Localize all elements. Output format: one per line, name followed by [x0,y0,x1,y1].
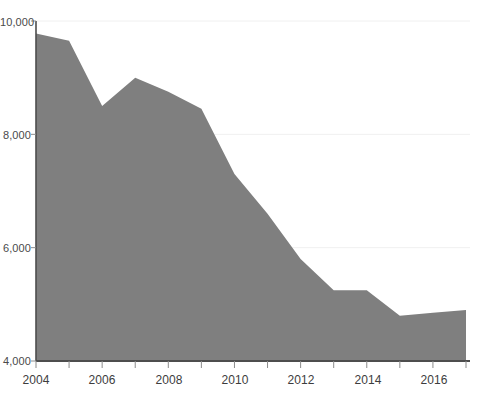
x-tick-label-2010: 2010 [206,373,264,387]
x-tick-label-2016: 2016 [405,373,463,387]
x-tick-label-2014: 2014 [339,373,397,387]
x-axis-tick-marks [36,361,466,368]
chart-plot-area [0,0,479,398]
x-tick-label-2004: 2004 [7,373,65,387]
x-tick-label-2008: 2008 [140,373,198,387]
y-tick-label-6000: 6,000 [0,242,31,254]
area-series-fill [36,33,466,361]
x-tick-label-2006: 2006 [73,373,131,387]
y-tick-label-4000: 4,000 [0,355,31,367]
y-tick-label-10000: 10,000 [0,16,31,28]
x-tick-label-2012: 2012 [272,373,330,387]
area-chart: 10,000 8,000 6,000 4,000 2004 2006 2008 … [0,0,479,398]
y-tick-label-8000: 8,000 [0,129,31,141]
